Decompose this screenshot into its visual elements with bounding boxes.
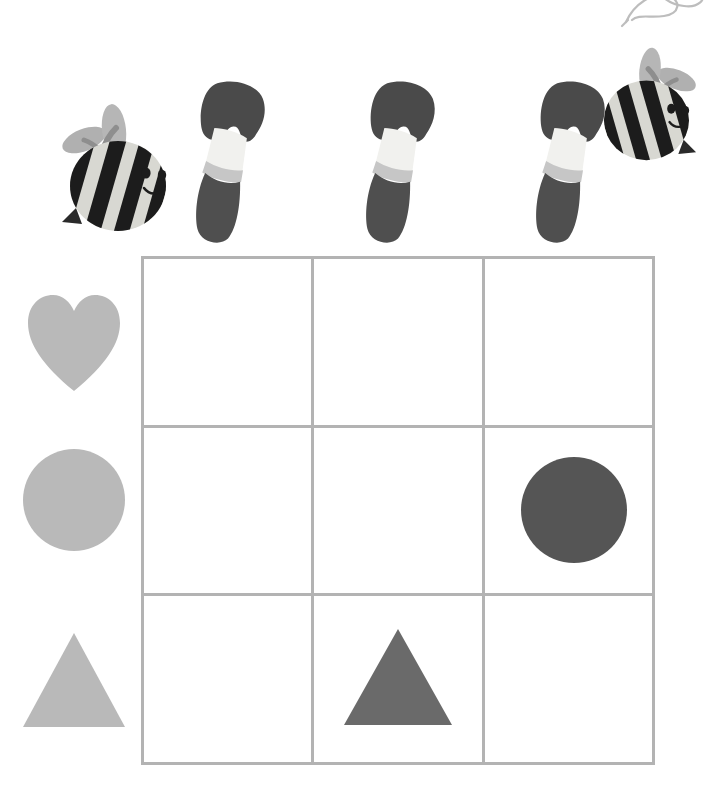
grid-cell-r2c2[interactable]: [314, 428, 484, 597]
triangle-icon: [21, 631, 127, 729]
row-key-circle: [14, 440, 134, 560]
grid-cell-r2c3[interactable]: [485, 428, 655, 597]
grid-cell-content: [314, 259, 481, 425]
paintbrush-icon: [155, 74, 300, 246]
painting-grid[interactable]: [141, 256, 655, 765]
grid-cell-r3c3[interactable]: [485, 596, 655, 765]
row-key-heart: [14, 275, 134, 411]
bee-icon: [588, 44, 711, 170]
circle-icon: [520, 456, 628, 564]
grid-cell-r1c2[interactable]: [314, 259, 484, 428]
grid-cell-r3c1[interactable]: [144, 596, 314, 765]
wing-wisp-icon: [608, 0, 708, 30]
grid-cell-r3c2[interactable]: [314, 596, 484, 765]
grid-cell-r1c3[interactable]: [485, 259, 655, 428]
circle-icon: [22, 448, 126, 552]
grid-cell-content: [485, 259, 652, 425]
grid-cell-content: [485, 428, 652, 594]
triangle-icon: [342, 627, 454, 727]
grid-cell-r2c1[interactable]: [144, 428, 314, 597]
grid-cell-content: [144, 259, 311, 425]
paintbrush-icon: [325, 74, 470, 246]
grid-cell-content: [314, 596, 481, 762]
grid-cell-content: [314, 428, 481, 594]
row-key-triangle: [14, 620, 134, 740]
worksheet-canvas: [0, 0, 711, 805]
grid-cell-r1c1[interactable]: [144, 259, 314, 428]
grid-cell-content: [144, 596, 311, 762]
heart-icon: [26, 293, 122, 393]
grid-cell-content: [485, 596, 652, 762]
grid-cell-content: [144, 428, 311, 594]
